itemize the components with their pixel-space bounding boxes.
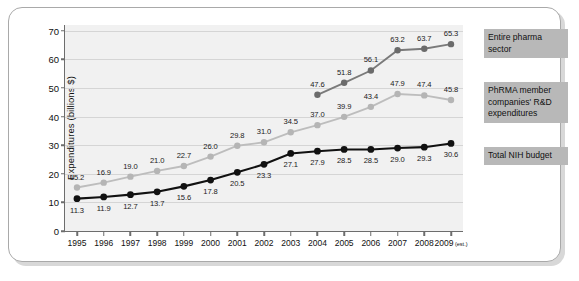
x-tick-mark bbox=[450, 231, 452, 236]
data-point-label: 11.3 bbox=[70, 205, 84, 214]
data-point-marker bbox=[181, 163, 187, 169]
data-point-label: 17.8 bbox=[203, 187, 217, 196]
data-point-marker bbox=[101, 179, 107, 185]
x-tick-mark bbox=[290, 231, 292, 236]
data-point-marker bbox=[261, 139, 267, 145]
x-tick-label: 2004 bbox=[308, 238, 327, 248]
data-point-marker bbox=[234, 169, 241, 176]
data-point-label: 47.9 bbox=[390, 78, 404, 87]
data-point-marker bbox=[394, 91, 400, 97]
data-point-label: 28.5 bbox=[337, 156, 351, 165]
data-point-marker bbox=[341, 80, 347, 86]
x-tick-mark bbox=[130, 231, 132, 236]
data-point-label: 51.8 bbox=[337, 67, 351, 76]
data-point-label: 34.5 bbox=[284, 117, 298, 126]
x-tick-mark bbox=[156, 231, 158, 236]
plot-area: Expenditures (billions $) 01020304050607… bbox=[64, 25, 463, 232]
data-point-label: 27.9 bbox=[310, 158, 324, 167]
data-point-marker bbox=[368, 67, 374, 73]
y-tick-label: 70 bbox=[48, 25, 59, 36]
data-point-label: 13.7 bbox=[150, 198, 164, 207]
data-point-marker bbox=[341, 114, 347, 120]
legend-item-phrma-members: PhRMA member companies' R&D expenditures bbox=[484, 82, 568, 123]
data-point-label: 43.4 bbox=[364, 91, 378, 100]
data-point-label: 47.6 bbox=[310, 79, 324, 88]
x-tick-label: 2005 bbox=[335, 238, 354, 248]
x-tick-label: 1995 bbox=[68, 238, 87, 248]
data-point-label: 27.1 bbox=[284, 160, 298, 169]
data-point-marker bbox=[394, 145, 401, 152]
data-point-label: 11.9 bbox=[97, 203, 111, 212]
x-tick-label-suffix: (est.) bbox=[453, 241, 467, 247]
data-point-marker bbox=[234, 143, 240, 149]
x-tick-label: 2008 bbox=[415, 238, 434, 248]
x-tick-mark bbox=[76, 231, 78, 236]
data-point-label: 29.8 bbox=[230, 130, 244, 139]
y-tick-label: 0 bbox=[54, 226, 59, 237]
x-tick-mark bbox=[424, 231, 426, 236]
data-point-label: 30.6 bbox=[444, 150, 458, 159]
data-point-label: 31.0 bbox=[257, 127, 271, 136]
data-point-marker bbox=[154, 168, 160, 174]
y-tick-label: 40 bbox=[48, 111, 59, 122]
x-tick-mark bbox=[237, 231, 239, 236]
data-point-label: 16.9 bbox=[97, 167, 111, 176]
y-tick-label: 30 bbox=[48, 140, 59, 151]
data-point-label: 65.3 bbox=[444, 29, 458, 38]
chart-figure: Expenditures (billions $) 01020304050607… bbox=[0, 0, 579, 281]
x-tick-label: 2009 (est.) bbox=[435, 238, 468, 248]
x-tick-mark bbox=[210, 231, 212, 236]
x-tick-mark bbox=[263, 231, 265, 236]
data-point-marker bbox=[288, 129, 294, 135]
data-point-label: 29.3 bbox=[417, 154, 431, 163]
data-point-marker bbox=[448, 140, 455, 147]
data-point-marker bbox=[394, 47, 400, 53]
x-tick-mark bbox=[370, 231, 372, 236]
data-point-marker bbox=[287, 150, 294, 157]
data-point-label: 63.2 bbox=[390, 35, 404, 44]
data-point-marker bbox=[367, 146, 374, 153]
data-point-marker bbox=[100, 194, 107, 201]
data-point-label: 37.0 bbox=[310, 110, 324, 119]
x-tick-label: 1997 bbox=[121, 238, 140, 248]
x-tick-mark bbox=[317, 231, 319, 236]
data-point-marker bbox=[180, 183, 187, 190]
data-point-label: 28.5 bbox=[364, 156, 378, 165]
x-tick-label: 2000 bbox=[201, 238, 220, 248]
x-tick-mark bbox=[183, 231, 185, 236]
legend-item-total-nih: Total NIH budget bbox=[484, 147, 568, 165]
data-point-label: 15.6 bbox=[177, 193, 191, 202]
data-point-label: 45.8 bbox=[444, 84, 458, 93]
data-point-label: 21.0 bbox=[150, 155, 164, 164]
x-tick-mark bbox=[103, 231, 105, 236]
data-point-marker bbox=[314, 122, 320, 128]
data-point-marker bbox=[207, 153, 213, 159]
data-point-marker bbox=[74, 184, 80, 190]
data-point-marker bbox=[448, 41, 454, 47]
data-point-label: 22.7 bbox=[177, 151, 191, 160]
data-point-label: 26.0 bbox=[203, 141, 217, 150]
data-point-marker bbox=[448, 97, 454, 103]
data-point-label: 23.3 bbox=[257, 171, 271, 180]
data-point-marker bbox=[421, 144, 428, 151]
y-tick-label: 60 bbox=[48, 54, 59, 65]
data-point-marker bbox=[314, 92, 320, 98]
data-point-label: 47.4 bbox=[417, 80, 431, 89]
x-tick-label: 2003 bbox=[281, 238, 300, 248]
x-tick-label: 1999 bbox=[174, 238, 193, 248]
data-point-marker bbox=[154, 188, 161, 195]
x-tick-label: 2002 bbox=[255, 238, 274, 248]
data-point-label: 19.0 bbox=[123, 161, 137, 170]
x-tick-mark bbox=[397, 231, 399, 236]
data-point-label: 20.5 bbox=[230, 179, 244, 188]
data-point-marker bbox=[74, 195, 81, 202]
data-point-marker bbox=[127, 191, 134, 198]
data-point-marker bbox=[368, 104, 374, 110]
data-point-label: 12.7 bbox=[123, 201, 137, 210]
y-tick-label: 10 bbox=[48, 197, 59, 208]
x-tick-label: 2001 bbox=[228, 238, 247, 248]
data-point-marker bbox=[421, 46, 427, 52]
y-tick-label: 20 bbox=[48, 168, 59, 179]
y-tick-label: 50 bbox=[48, 82, 59, 93]
x-tick-mark bbox=[343, 231, 345, 236]
